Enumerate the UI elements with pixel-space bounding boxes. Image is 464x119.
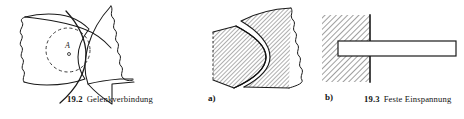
sublabel-a: a) [208, 94, 216, 103]
figure-19-3a-drawing [213, 8, 302, 88]
caption-19-2-text: Gelenkverbindung [87, 94, 153, 104]
sublabel-b: b) [325, 93, 333, 102]
hinge-right-body-outline [85, 6, 134, 104]
fixed-a-right-break-line [289, 8, 302, 88]
caption-19-3-number: 19.3 [364, 94, 380, 104]
cantilever-beam [338, 41, 456, 56]
figure-sheet: A [0, 0, 464, 119]
hinge-left-body [20, 14, 89, 85]
hinge-point-label: A [64, 41, 70, 50]
caption-19-3: 19.3Feste Einspannung [364, 95, 451, 104]
hinge-left-break-line [20, 17, 25, 82]
caption-19-3-text: Feste Einspannung [384, 94, 452, 104]
caption-19-2: 19.2Gelenkverbindung [67, 95, 153, 104]
figure-19-2-drawing: A [20, 6, 134, 104]
figure-19-3b-drawing [322, 15, 456, 82]
caption-19-2-number: 19.2 [67, 94, 83, 104]
hinge-left-body-outline [24, 14, 89, 85]
